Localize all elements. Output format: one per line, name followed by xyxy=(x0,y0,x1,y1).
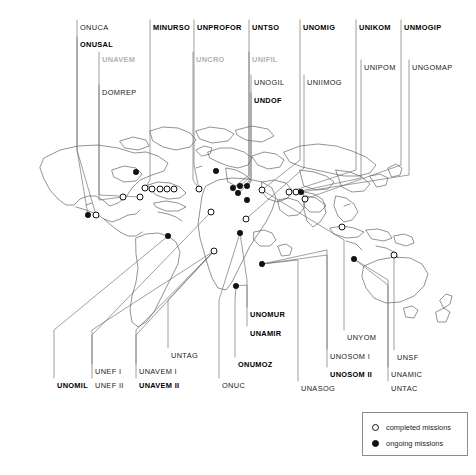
ongoing-mission-marker xyxy=(85,212,90,217)
completed-mission-marker xyxy=(149,186,155,192)
mission-label-unomur: UNOMUR xyxy=(250,311,285,318)
mission-label-unosom2: UNOSOM II xyxy=(330,371,372,378)
mission-label-unipom: UNIPOM xyxy=(364,64,396,71)
completed-mission-marker xyxy=(142,185,148,191)
completed-mission-marker xyxy=(286,189,292,195)
ongoing-mission-marker xyxy=(298,189,303,194)
mission-label-unomig: UNOMIG xyxy=(303,24,335,31)
mission-label-domrep: DOMREP xyxy=(102,89,137,96)
mission-label-unyom: UNYOM xyxy=(347,334,376,341)
mission-label-onuca: ONUCA xyxy=(80,24,108,31)
mission-label-unavem2: UNAVEM II xyxy=(139,382,179,389)
completed-mission-marker xyxy=(243,216,249,222)
ongoing-mission-marker xyxy=(237,183,242,188)
completed-mission-marker xyxy=(157,186,163,192)
mission-label-unomil: UNOMIL xyxy=(57,382,88,389)
legend-label-ongoing: ongoing missions xyxy=(386,439,443,448)
coastline-group xyxy=(40,126,452,327)
ongoing-mission-marker xyxy=(244,197,249,202)
completed-mission-marker xyxy=(137,194,143,200)
completed-mission-marker xyxy=(120,194,126,200)
completed-mission-marker xyxy=(208,209,214,215)
ongoing-mission-marker xyxy=(233,283,238,288)
mission-label-unavem: UNAVEM xyxy=(102,56,135,63)
completed-mission-marker xyxy=(164,186,170,192)
mission-label-unef2: UNEF II xyxy=(95,382,124,389)
completed-mission-marker xyxy=(196,186,202,192)
world-map-svg xyxy=(0,0,476,475)
ongoing-mission-marker xyxy=(244,183,249,188)
legend-item-ongoing: ongoing missions xyxy=(372,440,443,448)
mission-label-unosom1: UNOSOM I xyxy=(330,353,370,360)
mission-label-unmogip: UNMOGIP xyxy=(404,24,441,31)
completed-mission-marker xyxy=(211,248,217,254)
mission-label-unavem1: UNAVEM I xyxy=(139,368,177,375)
mission-label-uniimog: UNIIMOG xyxy=(307,79,342,86)
ongoing-mission-marker xyxy=(259,261,264,266)
completed-mission-marker xyxy=(171,186,177,192)
ongoing-mission-marker xyxy=(165,233,170,238)
ongoing-mission-marker xyxy=(133,169,138,174)
mission-label-unasog: UNASOG xyxy=(301,385,335,392)
filled-circle-icon xyxy=(372,440,379,447)
completed-mission-marker xyxy=(259,187,265,193)
mission-label-untac: UNTAC xyxy=(391,385,418,392)
legend-item-completed: completed missions xyxy=(372,424,451,432)
mission-label-undof: UNDOF xyxy=(254,97,282,104)
mission-label-ungomap: UNGOMAP xyxy=(412,64,453,71)
completed-mission-marker xyxy=(302,196,308,202)
completed-mission-markers xyxy=(93,185,397,258)
mission-label-unogil: UNOGIL xyxy=(254,79,284,86)
mission-label-unsf: UNSF xyxy=(397,354,419,361)
legend-box: completed missions ongoing missions xyxy=(362,412,468,456)
mission-label-unikom: UNIKOM xyxy=(359,24,391,31)
mission-label-onumoz: ONUMOZ xyxy=(238,361,273,368)
leader-lines-top xyxy=(77,20,409,219)
mission-label-unef1: UNEF I xyxy=(95,368,121,375)
ongoing-mission-marker xyxy=(230,185,235,190)
mission-label-onuc: ONUC xyxy=(222,382,245,389)
peacekeeping-map-figure: ONUCAONUSALUNAVEMDOMREPMINURSOUNPROFORUN… xyxy=(0,0,476,475)
mission-label-unifil: UNIFIL xyxy=(252,56,278,63)
mission-label-unprofor: UNPROFOR xyxy=(197,24,242,31)
mission-label-untso: UNTSO xyxy=(252,24,279,31)
legend-label-completed: completed missions xyxy=(386,423,451,432)
mission-label-onusal: ONUSAL xyxy=(80,41,113,48)
ongoing-mission-marker xyxy=(235,190,240,195)
completed-mission-marker xyxy=(391,252,397,258)
completed-mission-marker xyxy=(93,212,99,218)
ongoing-mission-marker xyxy=(351,256,356,261)
mission-label-minurso: MINURSO xyxy=(153,24,190,31)
hollow-circle-icon xyxy=(372,424,379,431)
mission-label-unamir: UNAMIR xyxy=(250,330,281,337)
ongoing-mission-marker xyxy=(237,230,242,235)
completed-mission-marker xyxy=(339,224,345,230)
mission-label-untag: UNTAG xyxy=(171,352,198,359)
ongoing-mission-marker xyxy=(213,168,218,173)
mission-label-uncro: UNCRO xyxy=(196,56,225,63)
mission-label-unamic: UNAMIC xyxy=(391,371,422,378)
